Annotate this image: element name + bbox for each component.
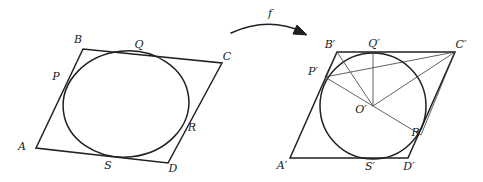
mapping-arrow-curve xyxy=(231,24,303,33)
tangent-label-s: S xyxy=(104,159,112,172)
incircle-abcd xyxy=(58,45,194,164)
center-label-o-prime: O′ xyxy=(355,103,367,116)
segment-o-to-b-prime xyxy=(337,52,373,106)
mapping-function-label: f xyxy=(267,7,274,20)
vertex-label-b-prime: B′ xyxy=(324,38,336,51)
left-figure-group: A B C D P Q R S xyxy=(17,33,232,175)
vertex-label-b: B xyxy=(73,33,82,46)
diagram-canvas: A B C D P Q R S f xyxy=(0,0,483,182)
tangent-label-p: P xyxy=(51,70,60,83)
tangent-label-r: R xyxy=(187,121,196,134)
tangent-label-p-prime: P′ xyxy=(307,65,318,78)
geometry-diagram: A B C D P Q R S f xyxy=(0,0,483,182)
vertex-label-a-prime: A′ xyxy=(276,159,288,172)
tangent-label-r-prime: R′ xyxy=(411,126,423,139)
line-c-prime-to-r-prime xyxy=(421,52,455,135)
mapping-arrow-group: f xyxy=(231,7,307,35)
vertex-label-d: D xyxy=(168,162,178,175)
mapping-arrow-head xyxy=(293,25,307,35)
tangent-label-q: Q xyxy=(134,38,143,51)
right-figure-group: A′ B′ C′ D′ O′ P′ Q′ R′ S′ xyxy=(276,37,467,173)
vertex-label-c-prime: C′ xyxy=(456,38,467,51)
vertex-label-a: A xyxy=(17,140,26,153)
tangent-label-q-prime: Q′ xyxy=(368,37,380,50)
vertex-label-d-prime: D′ xyxy=(402,160,415,173)
vertex-label-c: C xyxy=(223,50,232,63)
quadrilateral-abcd-outline xyxy=(36,49,222,163)
tangent-label-s-prime: S′ xyxy=(365,160,376,173)
radius-o-to-p-prime xyxy=(325,77,373,106)
